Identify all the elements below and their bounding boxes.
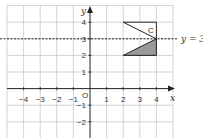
y-tick-label: −2: [77, 118, 87, 127]
y-axis-label: y: [80, 6, 87, 16]
y-tick-label: −1: [77, 101, 87, 110]
x-tick-label: −4: [19, 95, 29, 104]
y-tick-label: 2: [82, 51, 87, 60]
y-tick-label: 1: [82, 68, 87, 77]
origin-label: O: [82, 91, 88, 100]
x-tick-label: −3: [36, 95, 46, 104]
y-tick-label: 3: [82, 35, 87, 44]
shape-c-label: C: [148, 26, 154, 35]
x-axis-arrow-icon: [168, 86, 175, 92]
coordinate-grid: C y = 3 x y O −4 −3 −2 −1 1 2 3 4 4 3 2 …: [0, 0, 203, 138]
x-tick-label: 3: [138, 95, 143, 104]
x-tick-label: −2: [52, 95, 62, 104]
x-tick-label: 4: [154, 95, 159, 104]
y-axis-arrow-icon: [87, 6, 93, 13]
x-tick-label: 2: [121, 95, 126, 104]
y-tick-label: 4: [82, 18, 87, 27]
x-axis-label: x: [170, 93, 175, 103]
x-tick-label: 1: [104, 95, 109, 104]
mirror-line-label: y = 3: [180, 34, 203, 44]
